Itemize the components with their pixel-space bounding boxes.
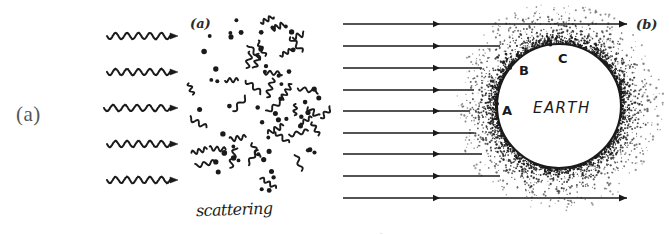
atmosphere-stipple-dot <box>515 51 516 52</box>
atmosphere-stipple-dot <box>479 141 481 143</box>
atmosphere-stipple-dot <box>536 195 537 196</box>
atmosphere-stipple-dot <box>494 131 496 133</box>
atmosphere-stipple-dot <box>475 111 477 113</box>
atmosphere-stipple-dot <box>619 79 621 81</box>
atmosphere-stipple-dot <box>496 73 498 75</box>
atmosphere-stipple-dot <box>487 48 488 49</box>
atmosphere-stipple-dot <box>497 86 498 87</box>
atmosphere-stipple-dot <box>492 112 493 113</box>
atmosphere-stipple-dot <box>497 135 499 137</box>
atmosphere-stipple-dot <box>515 27 517 29</box>
atmosphere-stipple-dot <box>561 172 563 174</box>
atmosphere-stipple-dot <box>600 172 602 174</box>
atmosphere-stipple-dot <box>461 105 463 107</box>
atmosphere-stipple-dot <box>606 30 608 32</box>
atmosphere-stipple-dot <box>622 102 623 103</box>
atmosphere-stipple-dot <box>505 167 507 169</box>
atmosphere-stipple-dot <box>657 123 659 125</box>
atmosphere-stipple-dot <box>623 112 625 114</box>
scatter-particle-dot <box>209 78 213 82</box>
atmosphere-stipple-dot <box>625 65 627 67</box>
atmosphere-stipple-dot <box>487 86 489 88</box>
atmosphere-stipple-dot <box>524 47 525 48</box>
atmosphere-stipple-dot <box>623 122 625 124</box>
atmosphere-stipple-dot <box>468 139 470 141</box>
atmosphere-stipple-dot <box>654 109 655 110</box>
scatter-particle-dot <box>234 18 238 22</box>
atmosphere-stipple-dot <box>645 124 647 126</box>
atmosphere-stipple-dot <box>567 34 568 35</box>
atmosphere-stipple-dot <box>494 124 496 126</box>
atmosphere-stipple-dot <box>608 176 610 178</box>
atmosphere-stipple-dot <box>474 124 475 125</box>
atmosphere-stipple-dot <box>629 67 631 69</box>
atmosphere-stipple-dot <box>489 57 490 58</box>
atmosphere-stipple-dot <box>611 152 613 154</box>
atmosphere-stipple-dot <box>611 26 613 28</box>
atmosphere-stipple-dot <box>619 149 621 151</box>
atmosphere-stipple-dot <box>568 20 570 22</box>
atmosphere-stipple-dot <box>515 14 517 16</box>
atmosphere-stipple-dot <box>611 172 612 173</box>
atmosphere-stipple-dot <box>526 33 527 34</box>
atmosphere-stipple-dot <box>528 184 530 186</box>
atmosphere-stipple-dot <box>631 109 633 111</box>
atmosphere-stipple-dot <box>636 117 637 118</box>
atmosphere-stipple-dot <box>627 145 628 146</box>
atmosphere-stipple-dot <box>503 69 505 71</box>
atmosphere-stipple-dot <box>486 112 487 113</box>
atmosphere-stipple-dot <box>526 165 528 167</box>
atmosphere-stipple-dot <box>565 210 567 212</box>
atmosphere-stipple-dot <box>629 65 631 67</box>
atmosphere-stipple-dot <box>590 176 592 178</box>
atmosphere-stipple-dot <box>523 163 525 165</box>
atmosphere-stipple-dot <box>610 150 611 151</box>
atmosphere-stipple-dot <box>504 64 505 65</box>
atmosphere-stipple-dot <box>617 77 619 79</box>
atmosphere-stipple-dot <box>472 107 474 109</box>
atmosphere-stipple-dot <box>644 84 645 85</box>
atmosphere-stipple-dot <box>474 77 476 79</box>
atmosphere-stipple-dot <box>540 203 541 204</box>
atmosphere-stipple-dot <box>636 147 637 148</box>
atmosphere-stipple-dot <box>606 154 608 156</box>
atmosphere-stipple-dot <box>594 163 596 165</box>
atmosphere-stipple-dot <box>629 154 631 156</box>
atmosphere-stipple-dot <box>618 139 619 140</box>
atmosphere-stipple-dot <box>584 177 586 179</box>
atmosphere-stipple-dot <box>530 164 531 165</box>
atmosphere-stipple-dot <box>643 160 645 162</box>
atmosphere-stipple-dot <box>550 34 552 36</box>
atmosphere-stipple-dot <box>474 119 475 120</box>
atmosphere-stipple-dot <box>487 42 489 44</box>
atmosphere-stipple-dot <box>583 42 585 44</box>
atmosphere-stipple-dot <box>526 7 527 8</box>
atmosphere-stipple-dot <box>622 62 623 63</box>
atmosphere-stipple-dot <box>492 111 493 112</box>
atmosphere-stipple-dot <box>473 121 474 122</box>
atmosphere-stipple-dot <box>568 200 570 202</box>
atmosphere-stipple-dot <box>526 161 527 162</box>
atmosphere-stipple-dot <box>634 127 636 129</box>
atmosphere-stipple-dot <box>492 130 494 132</box>
atmosphere-stipple-dot <box>507 144 509 146</box>
atmosphere-stipple-dot <box>636 136 637 137</box>
atmosphere-stipple-dot <box>580 30 582 32</box>
atmosphere-stipple-dot <box>514 171 516 173</box>
atmosphere-stipple-dot <box>500 141 501 142</box>
atmosphere-stipple-dot <box>495 143 497 145</box>
atmosphere-stipple-dot <box>534 194 536 196</box>
atmosphere-stipple-dot <box>634 119 636 121</box>
atmosphere-stipple-dot <box>625 138 627 140</box>
atmosphere-stipple-dot <box>480 161 482 163</box>
atmosphere-stipple-dot <box>623 96 624 97</box>
atmosphere-stipple-dot <box>484 52 485 53</box>
atmosphere-stipple-dot <box>601 30 603 32</box>
atmosphere-stipple-dot <box>481 80 482 81</box>
atmosphere-stipple-dot <box>567 179 569 181</box>
atmosphere-stipple-dot <box>652 135 654 137</box>
atmosphere-stipple-dot <box>496 147 498 149</box>
atmosphere-stipple-dot <box>529 168 531 170</box>
atmosphere-stipple-dot <box>662 104 664 106</box>
atmosphere-stipple-dot <box>662 93 664 95</box>
